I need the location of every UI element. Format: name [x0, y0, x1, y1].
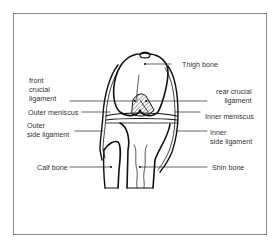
label-shin-bone: Shin bone: [212, 163, 244, 172]
calf-bone-shape: [104, 141, 120, 188]
label-outer-meniscus: Outer meniscus: [28, 108, 78, 117]
label-outer-side-ligament: Outer side ligament: [27, 121, 69, 139]
label-rear-crucial-ligament: rear crucial ligament: [216, 87, 252, 105]
shin-bone-shape: [120, 123, 129, 188]
label-inner-side-ligament: Inner side ligament: [210, 128, 252, 146]
label-thigh-bone: Thigh bone: [182, 60, 218, 69]
outer-side-ligament-shape: [100, 65, 121, 160]
label-front-crucial-ligament: front crucial ligament: [29, 76, 56, 103]
label-inner-meniscus: Inner meniscus: [205, 112, 254, 121]
label-calf-bone: Calf bone: [37, 163, 68, 172]
